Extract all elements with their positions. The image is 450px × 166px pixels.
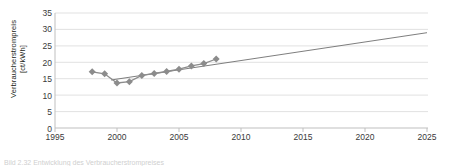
data-point bbox=[176, 66, 183, 73]
grid-lines bbox=[55, 13, 428, 112]
data-point bbox=[126, 78, 133, 85]
x-tick-label: 2025 bbox=[418, 133, 437, 142]
x-tick-label: 1995 bbox=[46, 133, 65, 142]
data-point bbox=[138, 72, 145, 79]
chart-figure: Verbraucherstrompreis [ct/kWh] 35 30 25 … bbox=[0, 0, 450, 166]
x-tick-label: 2010 bbox=[232, 133, 251, 142]
data-point bbox=[89, 68, 96, 75]
x-tick-label: 2005 bbox=[170, 133, 189, 142]
figure-caption: Bild 2.32 Entwicklung des Verbraucherstr… bbox=[4, 159, 444, 166]
data-point bbox=[213, 56, 220, 63]
data-point bbox=[151, 70, 158, 77]
x-axis-tick-labels: 1995 2000 2005 2010 2015 2020 2025 bbox=[0, 133, 450, 147]
data-markers bbox=[89, 56, 220, 87]
data-point bbox=[163, 68, 170, 75]
x-tick-label: 2020 bbox=[356, 133, 375, 142]
x-tick-label: 2015 bbox=[294, 133, 313, 142]
x-tick-label: 2000 bbox=[108, 133, 127, 142]
